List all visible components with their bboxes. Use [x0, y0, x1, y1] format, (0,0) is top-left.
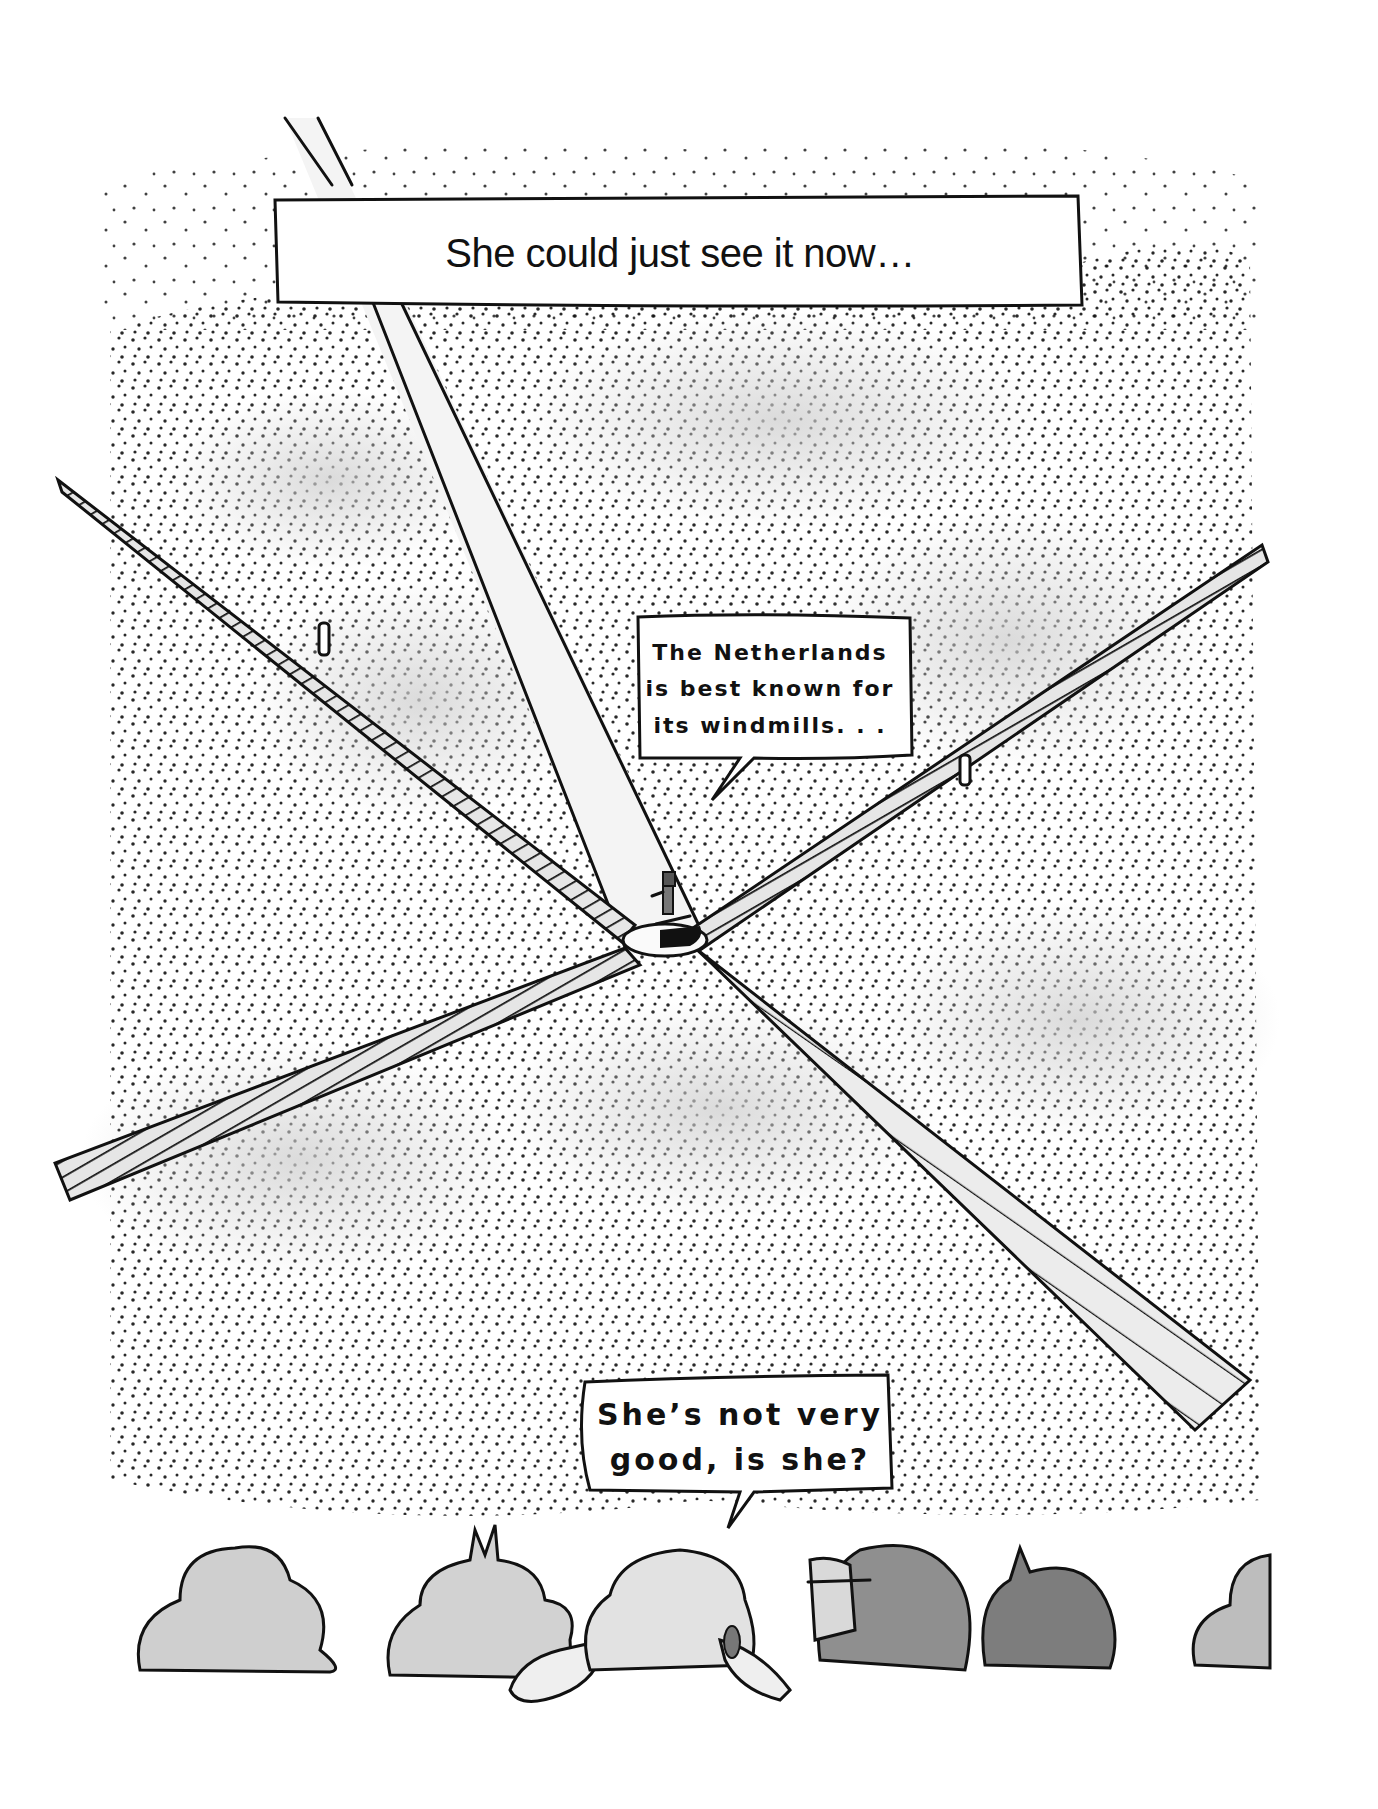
figure-left-sail — [319, 623, 329, 655]
audience-head-1 — [138, 1547, 335, 1672]
audience-heads — [138, 1525, 1270, 1701]
audience-head-3-earring — [724, 1626, 740, 1658]
caption-text: She could just see it now… — [445, 231, 914, 275]
comic-panel: She could just see it now… The Netherlan… — [0, 0, 1378, 1809]
windmill-hub — [623, 924, 707, 956]
audience-head-6 — [1193, 1555, 1270, 1668]
speech-line-1: She’s not very — [597, 1397, 883, 1432]
caption-box: She could just see it now… — [275, 196, 1082, 306]
audience-head-4-face — [810, 1558, 855, 1640]
speech-line-3: its windmills. . . — [653, 713, 886, 738]
glasses-icon — [808, 1580, 870, 1582]
speech-line-1: The Netherlands — [652, 640, 887, 665]
figure-right-sail — [960, 755, 970, 785]
speech-line-2: good, is she? — [610, 1442, 871, 1477]
speech-line-2: is best known for — [646, 676, 895, 701]
audience-head-5 — [983, 1548, 1115, 1668]
